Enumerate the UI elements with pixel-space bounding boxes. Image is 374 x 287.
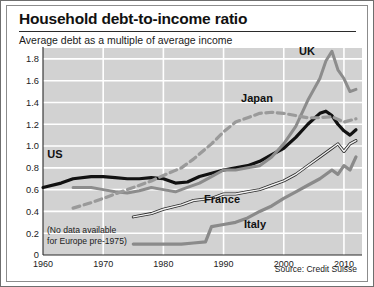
no-data-annotation: (No data availablefor Europe pre-1975) bbox=[47, 225, 127, 246]
x-tick-label: 1980 bbox=[153, 259, 173, 269]
series-label-uk: UK bbox=[299, 45, 315, 57]
y-tick-label: 0.4 bbox=[26, 207, 39, 217]
annotation-line-2: for Europe pre-1975) bbox=[47, 236, 127, 246]
x-tick-label: 1970 bbox=[93, 259, 113, 269]
x-tick-label: 1960 bbox=[33, 259, 53, 269]
series-label-italy: Italy bbox=[244, 218, 267, 230]
plot-area-wrapper: 00.20.40.60.81.01.21.41.61.8 19601970198… bbox=[7, 6, 369, 283]
y-axis-tick-labels: 00.20.40.60.81.01.21.41.61.8 bbox=[26, 54, 39, 260]
y-tick-label: 0.6 bbox=[26, 185, 39, 195]
chart-canvas: 00.20.40.60.81.01.21.41.61.8 19601970198… bbox=[7, 6, 369, 283]
y-tick-label: 0.8 bbox=[26, 163, 39, 173]
source-credit: Source: Credit Suisse bbox=[275, 264, 357, 274]
y-tick-label: 1.2 bbox=[26, 120, 39, 130]
y-tick-label: 1.6 bbox=[26, 76, 39, 86]
y-tick-label: 0.2 bbox=[26, 229, 39, 239]
annotation-line-1: (No data available bbox=[47, 225, 116, 235]
x-tick-label: 1990 bbox=[214, 259, 234, 269]
y-tick-label: 1.0 bbox=[26, 141, 39, 151]
y-tick-label: 1.4 bbox=[26, 98, 39, 108]
figure-inner-frame: Household debt-to-income ratio Average d… bbox=[6, 5, 368, 282]
chart-figure: Household debt-to-income ratio Average d… bbox=[0, 0, 374, 287]
series-label-france: France bbox=[204, 193, 240, 205]
series-label-japan: Japan bbox=[241, 92, 273, 104]
series-label-us: US bbox=[47, 148, 62, 160]
y-tick-label: 1.8 bbox=[26, 54, 39, 64]
